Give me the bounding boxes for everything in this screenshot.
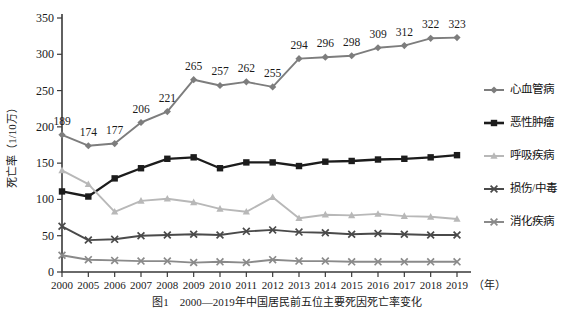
data-point-marker [401,156,407,162]
data-point-marker [374,44,381,51]
data-point-marker [216,82,223,89]
data-point-marker [427,154,433,160]
data-point-marker [138,165,144,171]
legend-item-1[interactable]: 心血管病 [484,82,555,95]
figure-caption-text: 图1 2000—2019年中国居民前五位主要死因死亡率变化 [152,295,422,308]
data-point-marker [296,163,302,169]
series-2 [59,152,460,200]
legend-label: 呼吸疾病 [510,148,555,161]
data-point-marker [401,42,408,49]
data-point-marker [269,159,275,165]
x-axis-tick-label: 2007 [130,279,153,291]
data-point-marker [111,175,117,181]
legend-label: 心血管病 [510,82,555,95]
data-point-label: 312 [396,26,414,38]
y-axis-tick-label: 50 [42,229,54,243]
x-axis-tick-label: 2011 [236,279,258,291]
series-5 [59,252,461,266]
x-axis-tick-label: 2018 [420,279,443,291]
x-axis-tick-label: 2006 [104,279,127,291]
legend-item-5[interactable]: 消化疾病 [484,214,555,227]
data-point-label: 323 [448,18,466,30]
data-point-marker [190,154,196,160]
data-point-marker [491,120,497,126]
data-point-label: 189 [53,115,71,127]
y-axis-title: 死亡率（1/10万） [5,102,18,188]
series-polyline [62,255,457,262]
data-point-marker [454,152,460,158]
data-point-marker [59,188,65,194]
data-point-marker [243,78,250,85]
data-point-marker [348,158,354,164]
mortality-line-chart: 050100150200250300350死亡率（1/10万）200020052… [0,0,574,309]
data-point-marker [269,193,276,200]
axis-frame [62,14,471,272]
data-point-marker [453,34,460,41]
data-point-marker [58,167,65,174]
series-polyline [62,226,457,240]
data-point-marker [217,165,223,171]
x-axis-tick-label: 2016 [367,279,390,291]
data-point-label: 257 [211,65,229,77]
data-point-label: 221 [159,92,177,104]
x-axis-unit-label: （年） [473,278,506,291]
x-axis-tick-label: 2012 [262,279,284,291]
data-point-label: 255 [264,67,282,79]
x-axis-tick-label: 2009 [183,279,206,291]
y-axis-tick-label: 250 [36,84,54,98]
series-polyline [62,155,457,196]
x-axis-tick-label: 2014 [314,279,337,291]
data-labels-layer: 1891741772062212652572622552942962983093… [53,18,466,138]
x-axis-tick-label: 2008 [156,279,179,291]
data-point-marker [348,52,355,59]
x-axis-tick-label: 2017 [393,279,416,291]
series-4 [59,223,461,244]
chart-legend: 心血管病恶性肿瘤呼吸疾病损伤/中毒消化疾病 [484,82,558,227]
x-axis-tick-label: 2005 [77,279,100,291]
y-axis-tick-label: 150 [36,156,54,170]
data-point-marker [164,156,170,162]
data-point-label: 265 [185,60,203,72]
x-axis-tick-label: 2015 [341,279,364,291]
data-point-label: 309 [369,28,387,40]
data-point-marker [322,54,329,61]
data-point-label: 262 [238,62,256,74]
data-point-marker [58,131,65,138]
data-point-marker [85,142,92,149]
legend-item-3[interactable]: 呼吸疾病 [484,148,555,161]
axes-layer: 050100150200250300350死亡率（1/10万）200020052… [5,11,506,291]
x-axis-tick-label: 2019 [446,279,469,291]
data-point-label: 206 [132,103,150,115]
y-axis-tick-label: 200 [36,120,54,134]
legend-item-2[interactable]: 恶性肿瘤 [484,115,555,128]
data-point-marker [427,35,434,42]
figure-container: 050100150200250300350死亡率（1/10万）200020052… [0,0,574,309]
x-axis-tick-label: 2010 [209,279,232,291]
figure-caption: 图1 2000—2019年中国居民前五位主要死因死亡率变化 [152,295,422,308]
series-layer [58,34,460,266]
data-point-marker [243,159,249,165]
y-axis-tick-label: 100 [36,192,54,206]
series-3 [58,167,460,222]
data-point-label: 294 [290,39,308,51]
legend-label: 损伤/中毒 [510,181,558,194]
legend-label: 恶性肿瘤 [510,115,555,128]
data-point-label: 298 [343,36,361,48]
legend-item-4[interactable]: 损伤/中毒 [484,181,558,194]
y-axis-tick-label: 350 [36,11,54,25]
series-polyline [62,170,457,219]
y-axis-tick-label: 300 [36,47,54,61]
x-axis-tick-label: 2000 [51,279,74,291]
data-point-marker [322,158,328,164]
legend-label: 消化疾病 [510,214,555,227]
data-point-label: 322 [422,18,440,30]
data-point-label: 174 [80,126,98,138]
data-point-marker [375,156,381,162]
data-point-label: 296 [317,37,335,49]
x-axis-tick-label: 2013 [288,279,311,291]
data-point-marker [85,193,91,199]
data-point-marker [490,86,497,93]
y-axis-tick-label: 0 [48,265,54,279]
data-point-label: 177 [106,124,124,136]
